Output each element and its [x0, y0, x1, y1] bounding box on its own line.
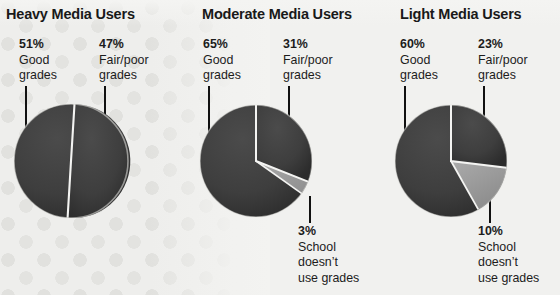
callout-line1: Fair/poor: [283, 53, 333, 67]
callout-percent: 10%: [478, 224, 539, 240]
callout-line1: Fair/poor: [478, 53, 528, 67]
callout-line1: Fair/poor: [99, 53, 149, 67]
callout-line1: Good: [19, 53, 49, 67]
callout-line2: grades: [19, 68, 57, 82]
callout-heavy-good: 51% Good grades: [19, 37, 57, 84]
callout-line2: grades: [478, 68, 516, 82]
infographic-pie-chart-figure: Heavy Media Users 51% Good grades 47% Fa…: [0, 0, 560, 295]
pie-chart-heavy: [12, 102, 130, 220]
callout-line2: doesn’t: [298, 255, 338, 269]
panel-title-moderate: Moderate Media Users: [202, 6, 352, 22]
callout-percent: 60%: [400, 37, 438, 53]
callout-line2: grades: [99, 68, 137, 82]
pie-svg-light: [393, 103, 509, 219]
callout-light-fairpoor: 23% Fair/poor grades: [478, 37, 528, 84]
pie-slice-fairpoor: [451, 105, 507, 168]
callout-line2: doesn’t: [478, 255, 518, 269]
callout-line3: use grades: [298, 271, 359, 285]
callout-moderate-nogrades: 3% School doesn’t use grades: [298, 224, 359, 286]
pie-chart-moderate: [198, 103, 314, 219]
callout-percent: 65%: [203, 37, 241, 53]
callout-line1: Good: [203, 53, 233, 67]
callout-light-good: 60% Good grades: [400, 37, 438, 84]
callout-line2: grades: [400, 68, 438, 82]
callout-line2: grades: [203, 68, 241, 82]
pie-slice-fairpoor: [68, 104, 131, 218]
callout-percent: 47%: [99, 37, 149, 53]
callout-heavy-fairpoor: 47% Fair/poor grades: [99, 37, 149, 84]
callout-line3: use grades: [478, 271, 539, 285]
callout-line1: School: [478, 240, 516, 254]
callout-moderate-fairpoor: 31% Fair/poor grades: [283, 37, 333, 84]
callout-moderate-good: 65% Good grades: [203, 37, 241, 84]
callout-percent: 23%: [478, 37, 528, 53]
callout-percent: 31%: [283, 37, 333, 53]
callout-line1: School: [298, 240, 336, 254]
callout-light-nogrades: 10% School doesn’t use grades: [478, 224, 539, 286]
pie-svg-heavy: [12, 102, 130, 220]
pie-chart-light: [393, 103, 509, 219]
callout-percent: 51%: [19, 37, 57, 53]
callout-percent: 3%: [298, 224, 359, 240]
callout-line2: grades: [283, 68, 321, 82]
panel-title-heavy: Heavy Media Users: [6, 6, 135, 22]
callout-line1: Good: [400, 53, 430, 67]
pie-svg-moderate: [198, 103, 314, 219]
panel-title-light: Light Media Users: [400, 6, 522, 22]
